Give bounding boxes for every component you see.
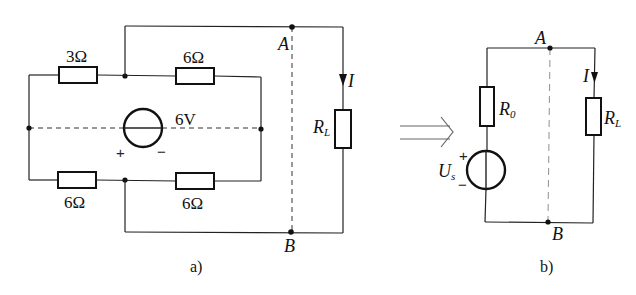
resistor-r0 (480, 87, 494, 126)
label-6ohm-bottom-left: 6Ω (64, 193, 85, 212)
circuit-b: R0 Us + − A B I RL b) (438, 28, 621, 276)
wire (485, 189, 486, 222)
wire (96, 180, 176, 181)
label-b: B (552, 224, 563, 244)
node-a (547, 45, 552, 50)
caption-a: a) (190, 258, 202, 276)
resistor-3ohm (59, 67, 97, 83)
label-us: Us (438, 161, 455, 182)
node-a (289, 24, 295, 30)
current-arrow-icon (339, 74, 347, 86)
node (258, 126, 263, 131)
wire-to-b (125, 232, 343, 233)
label-load: RL (312, 117, 330, 138)
plus-sign: + (459, 147, 468, 164)
minus-sign: − (458, 176, 467, 193)
caption-b: b) (540, 258, 553, 276)
node-b (288, 229, 294, 235)
resistor-6ohm-bottom-left (58, 172, 96, 188)
label-b: B (284, 236, 295, 256)
circuit-figure: 3Ω 6Ω 6Ω 6Ω 6V + − A B I RL (0, 0, 636, 295)
label-a: A (277, 34, 290, 54)
current-arrow-icon (591, 72, 598, 83)
label-current: I (582, 66, 590, 86)
label-a: A (534, 28, 547, 48)
label-6v: 6V (175, 110, 197, 129)
node (26, 125, 31, 130)
label-3ohm: 3Ω (66, 47, 87, 66)
label-load: RL (603, 108, 621, 129)
plus-sign: + (116, 144, 125, 161)
wire (214, 76, 261, 77)
wire-to-a (125, 26, 343, 27)
equivalent-arrow-icon (400, 117, 453, 147)
label-6ohm-top: 6Ω (183, 48, 204, 67)
label-current: I (347, 71, 355, 91)
label-6ohm-bottom-right: 6Ω (182, 194, 203, 213)
node-b (545, 219, 550, 224)
load-resistor (335, 110, 351, 148)
wire (97, 75, 176, 76)
circuit-a: 3Ω 6Ω 6Ω 6Ω 6V + − A B I RL (26, 24, 355, 276)
wire-bottom (485, 222, 593, 223)
wire (593, 135, 594, 223)
load-resistor (586, 98, 601, 135)
resistor-6ohm-bottom-right (176, 173, 214, 189)
resistor-6ohm-top (176, 68, 214, 84)
minus-sign: − (157, 143, 166, 160)
terminal-separator (548, 48, 550, 222)
label-r0: R0 (498, 99, 516, 120)
